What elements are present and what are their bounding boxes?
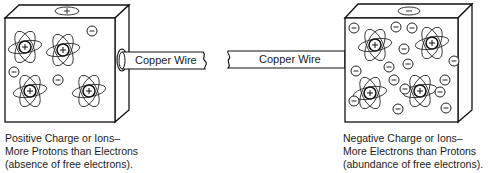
block-side-face bbox=[458, 4, 472, 122]
free-electron-icon bbox=[9, 67, 19, 77]
free-electron-icon bbox=[391, 22, 401, 32]
free-electron-icon bbox=[351, 66, 361, 76]
top-positive-symbol-icon bbox=[55, 7, 79, 15]
free-electron-icon bbox=[349, 23, 359, 33]
free-electron-icon bbox=[53, 75, 63, 85]
free-electron-icon bbox=[393, 104, 403, 114]
caption-line: (abundance of free electrons). bbox=[343, 158, 483, 171]
free-electron-icon bbox=[87, 26, 97, 36]
free-electron-icon bbox=[449, 56, 459, 66]
copper-wire-right: Copper Wire bbox=[228, 51, 345, 68]
positive-charge-caption: Positive Charge or Ions– More Protons th… bbox=[5, 132, 138, 171]
negative-charge-block bbox=[345, 4, 472, 122]
free-electron-icon bbox=[441, 103, 451, 113]
positive-charge-block bbox=[5, 5, 129, 122]
wire-label-right: Copper Wire bbox=[259, 53, 321, 65]
negative-charge-caption: Negative Charge or Ions– More Electrons … bbox=[343, 132, 483, 171]
free-electron-icon bbox=[400, 84, 410, 94]
free-electron-icon bbox=[440, 75, 450, 85]
copper-wire-left: Copper Wire bbox=[117, 49, 206, 71]
caption-line: Negative Charge or Ions– bbox=[343, 132, 483, 145]
free-electron-icon bbox=[384, 62, 394, 72]
caption-line: More Electrons than Protons bbox=[343, 145, 483, 158]
free-electron-icon bbox=[389, 75, 399, 85]
free-electron-icon bbox=[349, 96, 359, 106]
free-electron-icon bbox=[403, 59, 413, 69]
free-electron-icon bbox=[407, 23, 417, 33]
block-front-face bbox=[5, 18, 115, 122]
free-electron-icon bbox=[399, 44, 409, 54]
top-negative-symbol-icon bbox=[398, 7, 420, 15]
free-electron-icon bbox=[435, 87, 445, 97]
wire-label-left: Copper Wire bbox=[135, 54, 197, 66]
caption-line: Positive Charge or Ions– bbox=[5, 132, 138, 145]
caption-line: More Protons than Electrons bbox=[5, 145, 138, 158]
caption-line: (absence of free electrons). bbox=[5, 158, 138, 171]
